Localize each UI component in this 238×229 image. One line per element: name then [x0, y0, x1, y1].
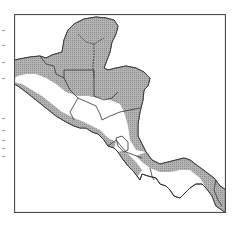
landmass: [14, 17, 226, 213]
central-america-map: [14, 14, 226, 213]
text-fragment: [2, 30, 5, 31]
text-fragment: [2, 45, 5, 46]
text-fragment: [2, 62, 5, 63]
text-fragment: [2, 156, 5, 157]
text-fragment: [2, 148, 5, 149]
text-fragment: [2, 78, 5, 79]
text-fragment: [2, 118, 5, 119]
text-fragment: [2, 140, 5, 141]
clipped-text-margin: [0, 0, 12, 229]
text-fragment: [2, 130, 5, 131]
